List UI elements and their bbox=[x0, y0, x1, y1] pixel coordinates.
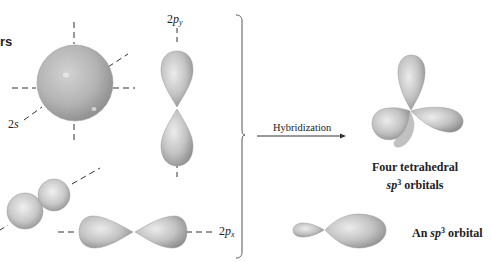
section-title-fragment: rs bbox=[0, 34, 12, 49]
hybridization-label: Hybridization bbox=[273, 122, 331, 133]
label-2px: 2px bbox=[219, 224, 235, 239]
caption-single-sp3: An sp3 orbital bbox=[412, 223, 483, 241]
orbital-2px bbox=[58, 216, 212, 248]
orbital-2py bbox=[161, 28, 193, 178]
hybridization-arrow bbox=[257, 134, 346, 139]
label-2s: 2s bbox=[8, 117, 19, 132]
orbital-sp3-single bbox=[293, 214, 386, 248]
grouping-brace bbox=[236, 15, 245, 258]
orbital-sp3-tetrahedral bbox=[372, 55, 463, 147]
caption-four-tetrahedral: Four tetrahedral sp3 orbitals bbox=[360, 160, 470, 193]
label-2py: 2py bbox=[167, 12, 183, 27]
orbital-2s bbox=[12, 22, 135, 140]
